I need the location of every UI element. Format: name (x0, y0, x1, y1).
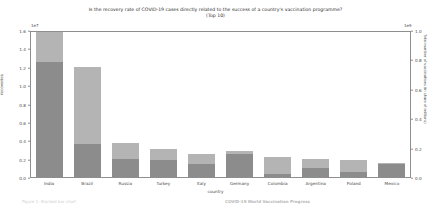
bar-segment-vaccinations (340, 160, 367, 171)
bar-segment-recoveries (74, 144, 101, 177)
bar-segment-vaccinations (112, 143, 139, 159)
chart-title: Is the recovery rate of COVID-19 cases d… (0, 7, 431, 19)
right-axis-ticks: 0.00.20.40.60.81.0 (411, 31, 431, 178)
stacked-bar[interactable] (378, 163, 405, 177)
bar-slot (145, 32, 183, 177)
chart-subtitle: (Top 10) (0, 13, 431, 19)
x-tick-label: Turkey (144, 178, 182, 186)
right-tick-label: 0.4 (415, 117, 422, 122)
x-tick-label: India (30, 178, 68, 186)
stacked-bar[interactable] (302, 159, 329, 177)
left-tick-label: 1.0 (19, 84, 26, 89)
bar-slot (31, 32, 69, 177)
bar-slot (183, 32, 221, 177)
bar-segment-vaccinations (188, 154, 215, 164)
plot-area (30, 31, 411, 178)
stacked-bar[interactable] (36, 32, 63, 177)
left-axis-exponent: 1e7 (31, 23, 39, 28)
footer-left-text: Figure 1: Stacked bar chart (22, 199, 76, 204)
right-axis-exponent: 1e9 (404, 23, 412, 28)
stacked-bar[interactable] (188, 154, 215, 177)
right-tick-mark (411, 119, 413, 120)
stacked-bar[interactable] (264, 157, 291, 177)
stacked-bar[interactable] (226, 151, 253, 177)
x-tick-label: Argentina (297, 178, 335, 186)
right-tick-label: 0.0 (415, 176, 422, 181)
right-tick-mark (411, 148, 413, 149)
bar-segment-recoveries (150, 160, 177, 177)
right-tick-mark (411, 178, 413, 179)
left-tick-label: 0.4 (19, 139, 26, 144)
right-tick-mark (411, 31, 413, 32)
bar-segment-recoveries (302, 168, 329, 177)
y-axis-label: recoveries (0, 74, 4, 95)
bar-slot (372, 32, 410, 177)
bar-slot (334, 32, 372, 177)
bar-segment-vaccinations (264, 157, 291, 174)
bar-segment-recoveries (188, 164, 215, 177)
bar-segment-vaccinations (74, 67, 101, 144)
left-tick-label: 0.0 (19, 176, 26, 181)
x-tick-label: Brazil (68, 178, 106, 186)
bar-slot (296, 32, 334, 177)
bar-segment-recoveries (340, 172, 367, 178)
stacked-bar[interactable] (150, 149, 177, 177)
x-axis-tick-labels: IndiaBrazilRussiaTurkeyItalyGermanyColom… (30, 178, 411, 186)
bar-segment-vaccinations (36, 32, 63, 62)
bar-segment-vaccinations (302, 159, 329, 168)
chart-figure: Is the recovery rate of COVID-19 cases d… (0, 0, 431, 205)
chart-title-line1: Is the recovery rate of COVID-19 cases d… (89, 7, 343, 12)
left-tick-label: 0.2 (19, 157, 26, 162)
bar-segment-recoveries (112, 159, 139, 177)
bar-slot (107, 32, 145, 177)
bar-segment-recoveries (36, 62, 63, 177)
secondary-y-axis-label: Total number of vaccinations (in share o… (423, 34, 427, 124)
right-tick-label: 0.8 (415, 58, 422, 63)
x-tick-label: Colombia (259, 178, 297, 186)
bar-group (31, 32, 410, 177)
bar-segment-recoveries (226, 154, 253, 177)
bar-segment-vaccinations (150, 149, 177, 160)
x-tick-label: Poland (335, 178, 373, 186)
bar-slot (221, 32, 259, 177)
stacked-bar[interactable] (340, 160, 367, 177)
x-tick-label: Germany (220, 178, 258, 186)
right-tick-label: 0.6 (415, 87, 422, 92)
right-tick-label: 1.0 (415, 29, 422, 34)
stacked-bar[interactable] (74, 67, 101, 177)
right-tick-label: 0.2 (415, 146, 422, 151)
bar-segment-recoveries (378, 164, 405, 177)
left-tick-label: 1.4 (19, 47, 26, 52)
x-tick-label: Mexico (373, 178, 411, 186)
x-tick-label: Russia (106, 178, 144, 186)
footer-right-text: COVID-19 World Vaccination Progress (225, 199, 310, 204)
stacked-bar[interactable] (112, 143, 139, 177)
left-tick-label: 0.6 (19, 120, 26, 125)
right-tick-mark (411, 60, 413, 61)
figure-footer: Figure 1: Stacked bar chart COVID-19 Wor… (0, 199, 431, 205)
bar-segment-recoveries (264, 174, 291, 177)
bar-slot (69, 32, 107, 177)
right-tick-mark (411, 90, 413, 91)
x-tick-label: Italy (182, 178, 220, 186)
left-tick-label: 0.8 (19, 102, 26, 107)
left-axis-ticks: 0.00.20.40.60.81.01.21.41.6 (0, 31, 30, 178)
left-tick-label: 1.6 (19, 29, 26, 34)
left-tick-label: 1.2 (19, 65, 26, 70)
x-axis-label: country (0, 189, 431, 194)
bar-slot (258, 32, 296, 177)
